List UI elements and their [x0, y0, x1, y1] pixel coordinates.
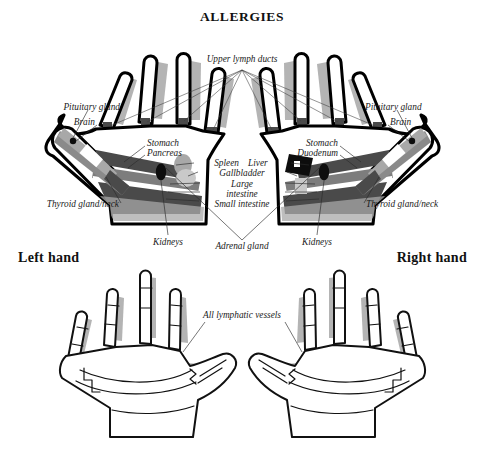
page-title: ALLERGIES — [200, 9, 284, 24]
label-spleen: Spleen — [214, 158, 239, 168]
label-liver: Liver — [247, 158, 268, 168]
label-gallbladder: Gallbladder — [219, 168, 265, 178]
label-left-kidneys: Kidneys — [152, 237, 183, 247]
lower-left-middle-finger — [140, 271, 151, 345]
left-middle-finger — [177, 54, 190, 125]
caption-left-hand: Left hand — [18, 250, 79, 265]
label-right-stomach: Stomach — [306, 138, 338, 148]
label-right-kidneys: Kidneys — [301, 237, 332, 247]
label-all-lymphatic-vessels: All lymphatic vessels — [202, 310, 281, 320]
allergies-reflexology-chart: ALLERGIES — [0, 0, 485, 449]
label-left-thyroid-gland-neck: Thyroid gland/neck — [47, 199, 120, 209]
label-left-brain: Brain — [74, 117, 96, 127]
label-left-pituitary-gland: Pituitary gland — [62, 102, 120, 112]
label-right-brain: Brain — [390, 117, 412, 127]
chart-canvas: ALLERGIES — [0, 0, 485, 449]
label-right-thyroid-gland-neck: Thyroid gland/neck — [366, 199, 439, 209]
lower-right-middle-finger — [334, 271, 345, 345]
caption-right-hand: Right hand — [397, 250, 467, 265]
right-kidney-marker — [319, 164, 329, 181]
lower-right-ring-finger — [367, 289, 381, 347]
label-left-pancreas: Pancreas — [146, 148, 182, 158]
right-middle-finger — [295, 54, 308, 125]
right-pituitary-marker — [409, 138, 415, 144]
left-kidney-marker — [156, 164, 166, 181]
label-right-duodenum: Duodenum — [296, 148, 338, 158]
right-pale-block — [295, 178, 307, 194]
lower-left-ring-finger — [104, 289, 118, 347]
lower-left-index-finger — [169, 289, 181, 350]
label-intestine: intestine — [226, 189, 258, 199]
lower-right-index-finger — [304, 289, 316, 350]
left-pituitary-marker — [70, 138, 76, 144]
label-upper-lymph-ducts: Upper lymph ducts — [207, 54, 278, 64]
label-small-intestine: Small intestine — [214, 199, 269, 209]
label-large: Large — [230, 179, 253, 189]
label-right-pituitary-gland: Pituitary gland — [364, 102, 422, 112]
label-adrenal-gland: Adrenal gland — [214, 241, 268, 251]
left-spleen-wash — [176, 169, 196, 187]
label-left-stomach: Stomach — [147, 138, 179, 148]
